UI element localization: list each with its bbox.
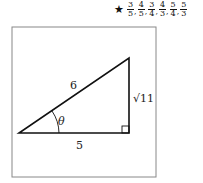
angle-label: θ	[58, 115, 65, 128]
triangle-diagram: 6 5 √11 θ	[0, 0, 203, 183]
opposite-label: √11	[133, 92, 154, 105]
right-angle-marker	[122, 126, 129, 133]
adjacent-label: 5	[76, 139, 83, 152]
right-triangle	[19, 58, 129, 133]
hypotenuse-label: 6	[70, 79, 77, 92]
